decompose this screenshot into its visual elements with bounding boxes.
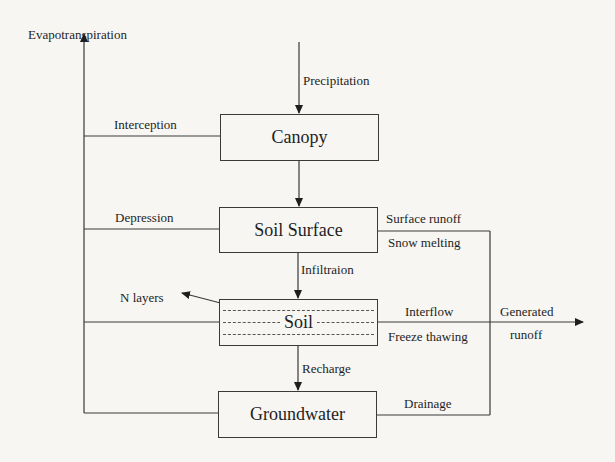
freeze-thawing-label: Freeze thawing <box>388 330 468 343</box>
recharge-label: Recharge <box>302 362 351 375</box>
soil-surface-box: Soil Surface <box>219 207 378 253</box>
infiltration-label: Infiltraion <box>301 263 354 276</box>
canopy-box: Canopy <box>220 114 379 161</box>
interception-label: Interception <box>114 118 177 131</box>
soil-label: Soil <box>280 312 317 333</box>
n-layers-label: N layers <box>120 291 164 304</box>
evapotranspiration-label: Evapotranspiration <box>28 28 127 41</box>
surface-runoff-label: Surface runoff <box>386 212 461 225</box>
soil-layer-divider <box>223 310 374 311</box>
depression-label: Depression <box>115 211 174 224</box>
canopy-label: Canopy <box>272 127 328 148</box>
groundwater-label: Groundwater <box>250 404 345 425</box>
soil-surface-label: Soil Surface <box>254 220 342 241</box>
soil-box: Soil <box>219 299 378 346</box>
soil-layer-divider <box>223 334 374 335</box>
snow-melting-label: Snow melting <box>388 236 461 249</box>
generated-runoff-label-line1: Generated <box>500 305 553 318</box>
generated-runoff-label-line2: runoff <box>510 328 542 341</box>
groundwater-box: Groundwater <box>218 391 377 438</box>
interflow-label: Interflow <box>405 305 453 318</box>
drainage-label: Drainage <box>404 397 452 410</box>
precipitation-label: Precipitation <box>303 74 369 87</box>
